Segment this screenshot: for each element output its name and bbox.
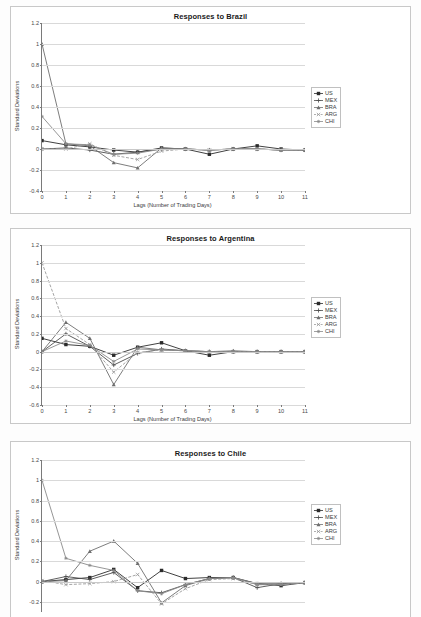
- legend-item-mex[interactable]: MEX: [314, 514, 337, 521]
- legend-item-us[interactable]: US: [314, 90, 337, 97]
- legend-label: CHI: [325, 328, 335, 335]
- legend-item-arg[interactable]: ARG: [314, 111, 337, 118]
- x-tick-mark: [114, 191, 115, 193]
- chart-title-chile: Responses to Chile: [11, 449, 410, 458]
- legend-item-us[interactable]: US: [314, 300, 337, 307]
- y-tick-mark: [40, 480, 42, 481]
- chart-panel-brazil: Responses to Brazil Standard Deviations …: [10, 6, 411, 214]
- x-tick-label: 1: [64, 194, 67, 200]
- x-tick-label: 6: [184, 194, 187, 200]
- y-tick-mark: [40, 298, 42, 299]
- legend-marker-icon: [314, 91, 323, 96]
- x-tick-mark: [138, 191, 139, 193]
- y-tick-label: 0: [36, 579, 39, 585]
- gridline: [42, 541, 305, 542]
- gridline: [42, 281, 305, 282]
- gridline: [42, 480, 305, 481]
- x-tick-label: 7: [208, 194, 211, 200]
- y-axis-label-brazil: Standard Deviations: [14, 76, 20, 136]
- gridline: [42, 561, 305, 562]
- y-tick-label: -0.6: [29, 402, 39, 408]
- legend-argentina: USMEXBRAARGCHI: [311, 297, 341, 338]
- x-tick-mark: [66, 405, 67, 407]
- y-tick-label: -0.2: [29, 167, 39, 173]
- legend-label: US: [325, 300, 333, 307]
- x-tick-mark: [257, 405, 258, 407]
- gridline: [42, 65, 305, 66]
- legend-label: BRA: [325, 314, 337, 321]
- gridline: [42, 334, 305, 335]
- legend-item-bra[interactable]: BRA: [314, 521, 337, 528]
- legend-item-arg[interactable]: ARG: [314, 528, 337, 535]
- legend-item-bra[interactable]: BRA: [314, 104, 337, 111]
- x-axis-label-argentina: Lags (Number of Trading Days): [41, 416, 304, 422]
- legend-marker-icon: [314, 329, 323, 334]
- legend-item-chi[interactable]: CHI: [314, 535, 337, 542]
- y-tick-label: -0.4: [29, 384, 39, 390]
- legend-item-arg[interactable]: ARG: [314, 321, 337, 328]
- y-tick-mark: [40, 44, 42, 45]
- legend-item-mex[interactable]: MEX: [314, 97, 337, 104]
- legend-marker-icon: [314, 119, 323, 124]
- y-tick-label: 0.8: [31, 62, 39, 68]
- gridline: [42, 501, 305, 502]
- legend-item-chi[interactable]: CHI: [314, 118, 337, 125]
- x-tick-mark: [281, 191, 282, 193]
- y-tick-mark: [40, 387, 42, 388]
- y-tick-label: 0.4: [31, 104, 39, 110]
- legend-item-us[interactable]: US: [314, 507, 337, 514]
- legend-item-mex[interactable]: MEX: [314, 307, 337, 314]
- x-tick-label: 10: [278, 194, 284, 200]
- x-tick-mark: [305, 191, 306, 193]
- y-tick-mark: [40, 561, 42, 562]
- chart-panel-argentina: Responses to Argentina Standard Deviatio…: [10, 228, 411, 424]
- gridline: [42, 107, 305, 108]
- gridline: [42, 23, 305, 24]
- x-tick-label: 5: [160, 408, 163, 414]
- gridline: [42, 298, 305, 299]
- x-tick-mark: [90, 191, 91, 193]
- x-tick-label: 6: [184, 408, 187, 414]
- x-tick-mark: [162, 405, 163, 407]
- gridline: [42, 128, 305, 129]
- legend-marker-icon: [314, 98, 323, 103]
- legend-label: ARG: [325, 528, 337, 535]
- gridline: [42, 405, 305, 406]
- legend-label: BRA: [325, 521, 337, 528]
- y-tick-label: 0.2: [31, 558, 39, 564]
- legend-item-bra[interactable]: BRA: [314, 314, 337, 321]
- gridline: [42, 369, 305, 370]
- x-tick-label: 2: [88, 408, 91, 414]
- y-tick-mark: [40, 352, 42, 353]
- y-tick-label: 1: [36, 260, 39, 266]
- y-tick-label: 0.4: [31, 313, 39, 319]
- legend-brazil: USMEXBRAARGCHI: [311, 87, 341, 128]
- legend-marker-icon: [314, 536, 323, 541]
- y-tick-mark: [40, 65, 42, 66]
- legend-label: MEX: [325, 514, 337, 521]
- y-tick-mark: [40, 521, 42, 522]
- y-tick-mark: [40, 263, 42, 264]
- x-tick-mark: [162, 191, 163, 193]
- y-tick-mark: [40, 316, 42, 317]
- y-tick-mark: [40, 602, 42, 603]
- x-tick-label: 9: [256, 408, 259, 414]
- y-tick-mark: [40, 582, 42, 583]
- y-tick-mark: [40, 460, 42, 461]
- legend-label: ARG: [325, 111, 337, 118]
- y-tick-label: 0.6: [31, 83, 39, 89]
- x-tick-label: 10: [278, 408, 284, 414]
- legend-item-chi[interactable]: CHI: [314, 328, 337, 335]
- y-tick-label: -0.2: [29, 599, 39, 605]
- gridline: [42, 521, 305, 522]
- x-tick-mark: [66, 191, 67, 193]
- x-tick-label: 2: [88, 194, 91, 200]
- chart-title-argentina: Responses to Argentina: [11, 234, 410, 243]
- y-tick-label: -0.4: [29, 188, 39, 194]
- chart-title-brazil: Responses to Brazil: [11, 12, 410, 21]
- legend-label: CHI: [325, 535, 335, 542]
- y-tick-mark: [40, 23, 42, 24]
- x-tick-label: 11: [302, 194, 308, 200]
- legend-marker-icon: [314, 112, 323, 117]
- gridline: [42, 245, 305, 246]
